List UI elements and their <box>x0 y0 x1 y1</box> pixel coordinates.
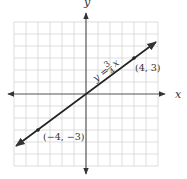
x-axis-label: x <box>175 88 182 101</box>
point-neg4-neg3 <box>36 128 40 132</box>
point-label-4-3: (4, 3) <box>135 62 161 73</box>
point-4-3 <box>132 56 136 60</box>
y-axis-label: y <box>83 0 91 9</box>
coordinate-plane: x y y = 3 4 x (4, 3) (−4, −3) <box>0 0 187 179</box>
point-label-neg4-neg3: (−4, −3) <box>43 131 84 142</box>
